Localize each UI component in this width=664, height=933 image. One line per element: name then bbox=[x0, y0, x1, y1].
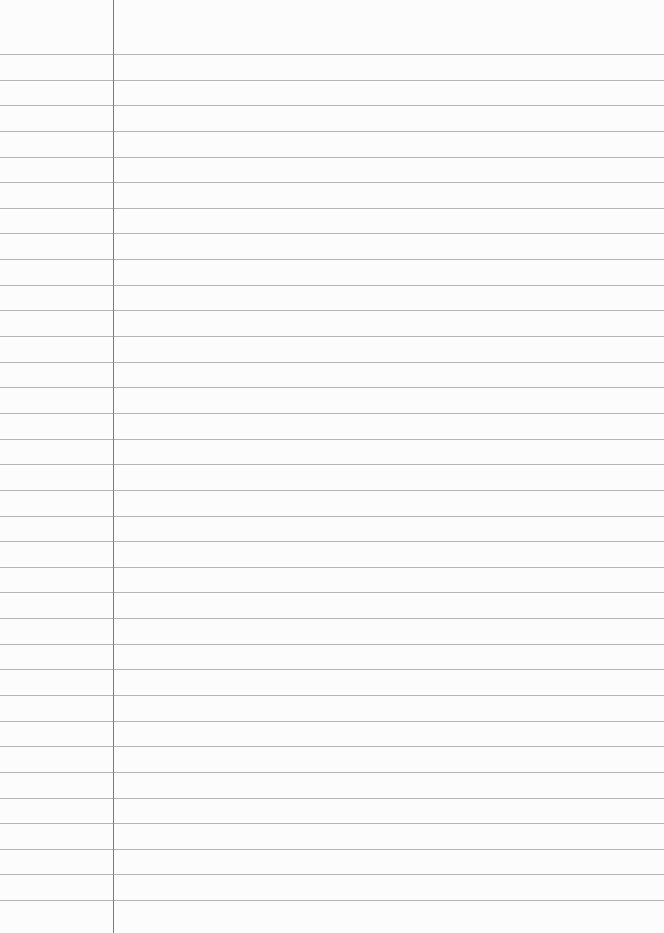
ruled-line bbox=[0, 874, 664, 875]
ruled-line bbox=[0, 387, 664, 388]
ruled-line bbox=[0, 54, 664, 55]
ruled-line bbox=[0, 285, 664, 286]
ruled-line bbox=[0, 746, 664, 747]
ruled-line bbox=[0, 695, 664, 696]
ruled-line bbox=[0, 823, 664, 824]
ruled-line bbox=[0, 669, 664, 670]
ruled-line bbox=[0, 105, 664, 106]
ruled-line bbox=[0, 721, 664, 722]
ruled-line bbox=[0, 182, 664, 183]
ruled-line bbox=[0, 798, 664, 799]
ruled-line bbox=[0, 900, 664, 901]
margin-line bbox=[113, 0, 114, 933]
lined-paper bbox=[0, 0, 664, 933]
ruled-line bbox=[0, 310, 664, 311]
ruled-line bbox=[0, 131, 664, 132]
ruled-line bbox=[0, 644, 664, 645]
ruled-line bbox=[0, 208, 664, 209]
ruled-line bbox=[0, 618, 664, 619]
ruled-line bbox=[0, 362, 664, 363]
ruled-line bbox=[0, 233, 664, 234]
ruled-line bbox=[0, 464, 664, 465]
ruled-line bbox=[0, 592, 664, 593]
ruled-line bbox=[0, 490, 664, 491]
ruled-line bbox=[0, 516, 664, 517]
ruled-line bbox=[0, 80, 664, 81]
ruled-line bbox=[0, 439, 664, 440]
ruled-line bbox=[0, 541, 664, 542]
ruled-line bbox=[0, 336, 664, 337]
ruled-line bbox=[0, 849, 664, 850]
ruled-line bbox=[0, 413, 664, 414]
ruled-line bbox=[0, 259, 664, 260]
ruled-line bbox=[0, 157, 664, 158]
ruled-line bbox=[0, 567, 664, 568]
ruled-line bbox=[0, 772, 664, 773]
